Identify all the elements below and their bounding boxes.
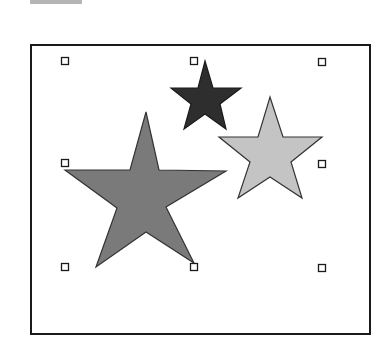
selection-handle[interactable]: [62, 58, 69, 65]
large-star[interactable]: [65, 112, 226, 267]
drawing-canvas[interactable]: [0, 0, 388, 356]
small-dark-star[interactable]: [171, 61, 241, 129]
selection-handle[interactable]: [62, 160, 69, 167]
selection-handle[interactable]: [191, 264, 198, 271]
selection-handle[interactable]: [319, 161, 326, 168]
selection-handle[interactable]: [191, 58, 198, 65]
selection-handle[interactable]: [319, 265, 326, 272]
selection-handle[interactable]: [62, 264, 69, 271]
selection-handle[interactable]: [319, 59, 326, 66]
medium-light-star[interactable]: [219, 97, 322, 198]
